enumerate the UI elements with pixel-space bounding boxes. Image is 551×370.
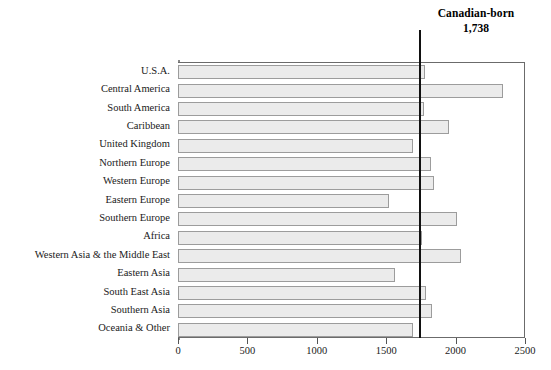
x-axis-tick — [178, 338, 179, 344]
annotation-label: Canadian-born — [406, 6, 546, 20]
category-label: Eastern Europe — [0, 195, 170, 206]
bar — [178, 194, 389, 208]
x-axis-tick-label: 2500 — [515, 345, 536, 356]
category-label: Southern Europe — [0, 213, 170, 224]
bar-row — [178, 286, 524, 300]
bar-row — [178, 323, 524, 337]
bar-row — [178, 120, 524, 134]
value-axis: 05001000150020002500 — [178, 338, 525, 368]
bar — [178, 176, 434, 190]
bar — [178, 286, 426, 300]
x-axis-tick — [386, 338, 387, 344]
bar-row — [178, 231, 524, 245]
category-label: Oceania & Other — [0, 323, 170, 334]
bar — [178, 157, 431, 171]
category-label: South America — [0, 103, 170, 114]
plot-area — [178, 62, 525, 338]
bar — [178, 304, 432, 318]
bar-row — [178, 102, 524, 116]
x-axis-tick-label: 0 — [175, 345, 180, 356]
bar-chart: Canadian-born 1,738 U.S.A.Central Americ… — [0, 0, 551, 370]
bar-row — [178, 84, 524, 98]
bar — [178, 212, 457, 226]
bar-row — [178, 212, 524, 226]
bar-row — [178, 249, 524, 263]
category-label: Eastern Asia — [0, 268, 170, 279]
category-axis-labels: U.S.A.Central AmericaSouth AmericaCaribb… — [0, 62, 174, 338]
category-label: Northern Europe — [0, 158, 170, 169]
bar-row — [178, 194, 524, 208]
category-label: Western Europe — [0, 176, 170, 187]
category-label: Caribbean — [0, 121, 170, 132]
x-axis-tick-label: 1000 — [306, 345, 327, 356]
bar-row — [178, 176, 524, 190]
x-axis-tick — [456, 338, 457, 344]
x-axis-tick — [247, 338, 248, 344]
bar-row — [178, 139, 524, 153]
category-label: Africa — [0, 231, 170, 242]
bar-row — [178, 268, 524, 282]
x-axis-tick-label: 500 — [240, 345, 256, 356]
bar — [178, 84, 503, 98]
canadian-born-reference-line — [419, 30, 421, 338]
bar — [178, 323, 413, 337]
x-axis-tick-label: 2000 — [445, 345, 466, 356]
bar — [178, 102, 424, 116]
annotation-value: 1,738 — [406, 21, 546, 35]
bar — [178, 231, 422, 245]
category-label: United Kingdom — [0, 139, 170, 150]
x-axis-tick — [525, 338, 526, 344]
category-label: Western Asia & the Middle East — [0, 250, 170, 261]
x-axis-tick — [317, 338, 318, 344]
x-axis-tick-label: 1500 — [376, 345, 397, 356]
bar — [178, 120, 449, 134]
bar-row — [178, 157, 524, 171]
bar-row — [178, 304, 524, 318]
bar — [178, 139, 413, 153]
bar — [178, 65, 425, 79]
category-label: South East Asia — [0, 287, 170, 298]
bar-row — [178, 65, 524, 79]
category-label: Southern Asia — [0, 305, 170, 316]
category-label: U.S.A. — [0, 66, 170, 77]
bar — [178, 268, 395, 282]
category-label: Central America — [0, 84, 170, 95]
canadian-born-annotation: Canadian-born 1,738 — [406, 6, 546, 36]
